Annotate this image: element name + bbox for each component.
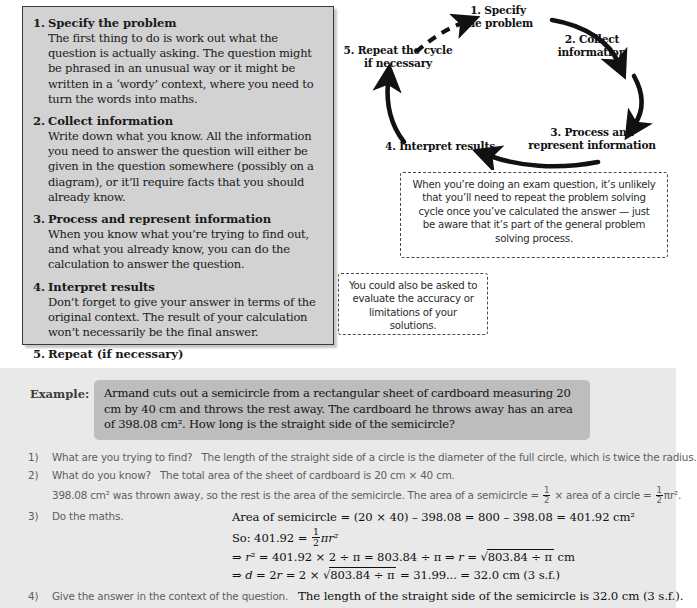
step-number: 1. <box>33 16 48 31</box>
step-heading: 1.Specify the problem <box>33 16 323 31</box>
solution-maths-block: Area of semicircle = (20 × 40) – 398.08 … <box>232 509 635 585</box>
step-heading: 2.Collect information <box>33 114 323 129</box>
step-title: Process and represent information <box>48 212 271 226</box>
maths-line-4-a: ⇒ <box>232 568 245 582</box>
example-label: Example: <box>30 380 94 401</box>
maths-line-4-g: = 31.99... = 32.0 cm (3 s.f.) <box>396 568 559 582</box>
maths-line-2: So: 401.92 = 12πr² <box>232 527 635 548</box>
worked-example-band: Example: Armand cuts out a semicircle fr… <box>0 368 676 608</box>
fraction-denominator: 2 <box>543 496 550 505</box>
solution-step-prompt: Do the maths. <box>52 509 232 524</box>
solution-step-number: 3) <box>28 509 52 524</box>
solution-step: 4) Give the answer in the context of the… <box>0 589 676 604</box>
maths-line-3-g: cm <box>554 550 575 564</box>
maths-line-1: Area of semicircle = (20 × 40) – 398.08 … <box>232 509 635 526</box>
step-title: Interpret results <box>48 280 155 294</box>
cycle-node-interpret-results: 4. Interpret results <box>381 140 499 153</box>
problem-solving-cycle-diagram: 1. Specify the problem 2. Collect inform… <box>338 0 676 170</box>
arrow-collect-to-process <box>634 76 642 124</box>
step-item: 5.Repeat (if necessary) <box>33 347 323 362</box>
solution-step-number: 4) <box>28 589 52 604</box>
solution-step-prompt: What do you know? The total area of the … <box>52 468 455 483</box>
solution-final-answer: The length of the straight side of the s… <box>298 589 683 604</box>
fraction-one-half: 12 <box>543 486 550 505</box>
maths-line-4-e: = 2 × <box>282 568 323 582</box>
step-title: Collect information <box>48 114 173 128</box>
step-body: Write down what you know. All the inform… <box>33 129 323 205</box>
step-number: 3. <box>33 212 48 227</box>
step-title: Specify the problem <box>48 16 176 30</box>
step-heading: 4.Interpret results <box>33 280 323 295</box>
solution-step-continuation: 398.08 cm² was thrown away, so the rest … <box>0 486 676 505</box>
step-title: Repeat (if necessary) <box>48 347 183 361</box>
arrow-interpret-to-repeat <box>388 82 404 142</box>
maths-line-2-prefix: So: 401.92 = <box>232 531 311 545</box>
solution-continuation-text-a: 398.08 cm² was thrown away, so the rest … <box>52 489 542 501</box>
callout-evaluate-note-text: You could also be asked to evaluate the … <box>338 273 488 339</box>
maths-line-4: ⇒ d = 2r = 2 × √803.84 ÷ π = 31.99... = … <box>232 567 635 584</box>
maths-line-4-radicand: 803.84 ÷ π <box>329 567 396 582</box>
maths-line-3-a: ⇒ <box>232 550 245 564</box>
solution-step-number: 2) <box>28 468 52 483</box>
solution-prompt-text: What do you know? <box>52 469 151 481</box>
example-question-text: Armand cuts out a semicircle from a rect… <box>94 380 590 440</box>
maths-line-3-c: ² = 401.92 × 2 ÷ π = 803.84 ÷ π ⇒ <box>251 550 459 564</box>
solution-step: 2) What do you know? The total area of t… <box>0 468 676 483</box>
solution-continuation-text-c: πr². <box>664 489 681 501</box>
problem-solving-steps-panel: 1.Specify the problem The first thing to… <box>22 6 334 345</box>
solution-step-prompt: What are you trying to find? The length … <box>52 450 697 465</box>
cycle-node-repeat-the-cycle: 5. Repeat the cycle if necessary <box>340 44 456 70</box>
fraction-one-half: 12 <box>656 486 663 505</box>
cycle-node-process-and-represent-information: 3. Process and represent information <box>520 126 664 152</box>
step-number: 2. <box>33 114 48 129</box>
maths-line-4-c: = 2 <box>253 568 277 582</box>
cycle-node-collect-information: 2. Collect information <box>544 33 640 59</box>
maths-line-3-e: = <box>464 550 481 564</box>
step-number: 5. <box>33 347 48 362</box>
maths-line-4-var-d: d <box>245 568 252 582</box>
step-item: 4.Interpret results Don’t forget to give… <box>33 280 323 341</box>
solution-answer-text: The total area of the sheet of cardboard… <box>160 469 455 481</box>
arrow-process-to-interpret <box>490 156 598 166</box>
step-heading: 3.Process and represent information <box>33 212 323 227</box>
solution-continuation-text-b: × area of a circle = <box>551 489 654 501</box>
maths-line-3-radicand: 803.84 ÷ π <box>487 549 554 564</box>
callout-exam-note: When you’re doing an exam question, it’s… <box>400 172 668 258</box>
step-item: 1.Specify the problem The first thing to… <box>33 16 323 107</box>
solution-prompt-text: What are you trying to find? <box>52 451 192 463</box>
step-item: 3.Process and represent information When… <box>33 212 323 273</box>
step-number: 4. <box>33 280 48 295</box>
callout-evaluate-note: You could also be asked to evaluate the … <box>338 273 488 335</box>
step-body: Don’t forget to give your answer in term… <box>33 295 323 341</box>
maths-line-3: ⇒ r² = 401.92 × 2 ÷ π = 803.84 ÷ π ⇒ r =… <box>232 549 635 566</box>
step-item: 2.Collect information Write down what yo… <box>33 114 323 205</box>
solution-step: 3) Do the maths. Area of semicircle = (2… <box>0 509 676 585</box>
fraction-denominator: 2 <box>656 496 663 505</box>
maths-line-2-expr: πr² <box>321 531 339 545</box>
step-body: The first thing to do is work out what t… <box>33 31 323 107</box>
callout-exam-note-text: When you’re doing an exam question, it’s… <box>400 172 668 251</box>
solution-step-number: 1) <box>28 450 52 465</box>
example-question-row: Example: Armand cuts out a semicircle fr… <box>30 380 590 440</box>
solution-step: 1) What are you trying to find? The leng… <box>0 450 676 465</box>
solution-step-prompt: Give the answer in the context of the qu… <box>52 589 288 604</box>
step-body: When you know what you’re trying to find… <box>33 227 323 273</box>
example-solution: 1) What are you trying to find? The leng… <box>0 450 676 607</box>
maths-line-2-suffix: πr² <box>321 531 339 545</box>
fraction-one-half: 12 <box>312 527 320 548</box>
solution-answer-text: The length of the straight side of a cir… <box>201 451 696 463</box>
fraction-denominator: 2 <box>312 538 320 548</box>
step-heading: 5.Repeat (if necessary) <box>33 347 323 362</box>
cycle-node-specify-the-problem: 1. Specify the problem <box>446 4 550 30</box>
